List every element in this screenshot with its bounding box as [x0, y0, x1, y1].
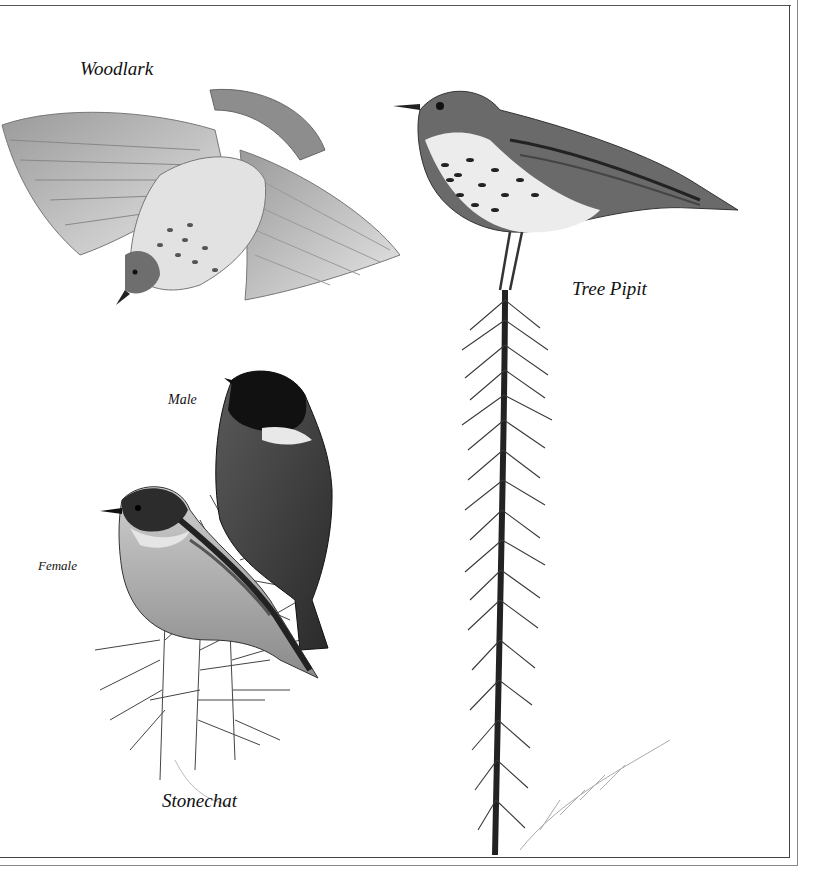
tree-pipit-label: Tree Pipit [572, 278, 647, 300]
illustration-canvas [0, 0, 814, 876]
tree-pipit-illustration [393, 91, 738, 290]
stonechat-label: Stonechat [162, 790, 237, 812]
conifer-sprig-illustration [462, 290, 670, 855]
woodlark-illustration [2, 89, 400, 305]
woodlark-label: Woodlark [80, 58, 153, 80]
female-label: Female [38, 558, 77, 574]
male-label: Male [168, 392, 197, 408]
